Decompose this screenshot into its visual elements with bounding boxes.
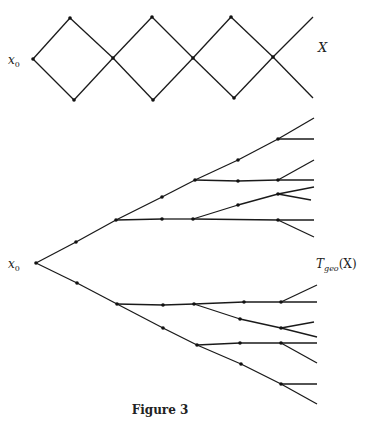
- tree-node: [160, 195, 164, 199]
- tree-edge: [117, 304, 163, 305]
- tree-node: [160, 217, 164, 221]
- top-edge: [231, 17, 273, 57]
- tree-node: [276, 218, 280, 222]
- tree-node: [279, 326, 283, 330]
- top-node: [72, 98, 76, 102]
- tree-root-label: x0: [8, 257, 20, 273]
- tree-node: [276, 137, 280, 141]
- top-end-label: X: [317, 40, 328, 55]
- tree-edge: [238, 194, 278, 205]
- tree-edge: [36, 242, 76, 263]
- tree-edge: [77, 283, 117, 304]
- top-node: [68, 16, 72, 20]
- tree-edge: [195, 160, 238, 180]
- tree-node: [279, 300, 283, 304]
- top-diagram-nodes: [31, 15, 275, 102]
- top-edge: [33, 18, 70, 59]
- top-node: [150, 15, 154, 19]
- tree-node: [242, 300, 246, 304]
- tree-node: [236, 158, 240, 162]
- tree-diagram-nodes: [34, 137, 283, 386]
- tree-edge: [36, 263, 77, 283]
- tree-label: Tgeo(X): [316, 257, 357, 273]
- tree-node: [239, 362, 243, 366]
- tree-edge: [163, 304, 194, 305]
- tree-edge: [193, 219, 278, 220]
- tree-diagram-edges: [36, 118, 317, 404]
- tree-node: [75, 281, 79, 285]
- tree-node: [236, 179, 240, 183]
- top-start-label: x0: [8, 53, 20, 69]
- tree-node: [192, 302, 196, 306]
- tree-edge: [241, 364, 281, 384]
- tree-edge: [278, 194, 311, 200]
- tree-edge: [238, 139, 278, 160]
- top-node: [111, 56, 115, 60]
- tree-node: [161, 326, 165, 330]
- tree-edge: [116, 197, 162, 220]
- tree-edge: [240, 319, 281, 328]
- tree-node: [74, 240, 78, 244]
- tree-edge: [278, 187, 314, 194]
- tree-node: [114, 218, 118, 222]
- tree-node: [238, 317, 242, 321]
- figure-3: x0 X x0 Tgeo(X) Figure 3: [0, 0, 370, 427]
- tree-edge: [76, 220, 116, 242]
- tree-edge: [197, 343, 240, 345]
- tree-node: [195, 343, 199, 347]
- tree-node: [238, 341, 242, 345]
- top-edge: [33, 59, 74, 100]
- top-node: [31, 57, 35, 61]
- top-node: [232, 96, 236, 100]
- tree-edge: [163, 328, 197, 345]
- tree-edge: [278, 220, 314, 237]
- tree-edge: [193, 205, 238, 219]
- tree-edge: [197, 345, 241, 364]
- tree-edge: [195, 180, 238, 181]
- top-diagram-edges: [33, 17, 313, 100]
- top-node: [271, 55, 275, 59]
- top-edge: [152, 17, 193, 58]
- figure-caption: Figure 3: [132, 403, 189, 417]
- top-node: [229, 15, 233, 19]
- tree-node: [34, 261, 38, 265]
- tree-edge: [281, 322, 314, 328]
- tree-node: [193, 178, 197, 182]
- tree-node: [236, 203, 240, 207]
- tree-edge: [162, 180, 195, 197]
- top-edge: [74, 58, 113, 100]
- top-edge: [113, 58, 153, 100]
- top-edge: [113, 17, 152, 58]
- tree-edge: [281, 285, 317, 302]
- top-edge: [153, 58, 193, 100]
- top-node: [151, 98, 155, 102]
- tree-edge: [117, 304, 163, 328]
- tree-node: [191, 217, 195, 221]
- tree-node: [279, 341, 283, 345]
- top-edge: [193, 58, 234, 98]
- tree-edge: [278, 118, 314, 139]
- tree-edge: [194, 304, 240, 319]
- tree-node: [279, 382, 283, 386]
- tree-node: [276, 192, 280, 196]
- tree-edge: [238, 180, 278, 181]
- tree-node: [161, 303, 165, 307]
- top-edge: [273, 57, 313, 98]
- tree-edge: [278, 160, 314, 180]
- top-edge: [234, 57, 273, 98]
- tree-edge: [281, 384, 317, 404]
- top-node: [191, 56, 195, 60]
- tree-node: [276, 178, 280, 182]
- tree-edge: [194, 302, 244, 304]
- top-edge: [273, 17, 313, 57]
- tree-edge: [116, 219, 162, 220]
- tree-edge: [281, 343, 317, 363]
- top-edge: [193, 17, 231, 58]
- tree-node: [115, 302, 119, 306]
- top-edge: [70, 18, 113, 58]
- tree-edge: [281, 328, 317, 337]
